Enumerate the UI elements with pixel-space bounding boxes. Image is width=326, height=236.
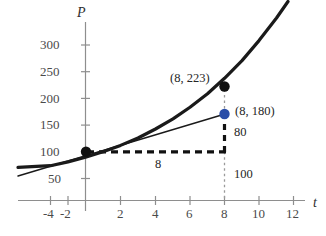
secant-point-label: (8, 180) <box>235 105 275 118</box>
y-tick-label-250: 250 <box>40 65 60 78</box>
base-label: 100 <box>234 168 253 181</box>
run-label: 8 <box>155 158 161 171</box>
y-tick-label-50: 50 <box>48 172 61 185</box>
x-tick-label-4: 4 <box>152 207 159 220</box>
x-tick-label--2: -2 <box>60 207 71 220</box>
x-tick-label-12: 12 <box>286 207 299 220</box>
x-tick-label-10: 10 <box>252 207 265 220</box>
y-tick-label-100: 100 <box>40 145 60 158</box>
curve-point-label: (8, 223) <box>170 72 210 85</box>
x-tick-label-8: 8 <box>221 207 228 220</box>
curve-point <box>219 81 229 91</box>
chart-figure: 300 250 200 150 100 50 -4 -2 2 4 6 8 10 … <box>0 0 326 236</box>
x-tick-label--4: -4 <box>43 207 54 220</box>
x-axis-title: t <box>313 196 317 210</box>
y-axis-title: P <box>77 6 86 20</box>
rise-label: 80 <box>234 126 247 139</box>
y-tick-label-200: 200 <box>40 92 60 105</box>
secant-point <box>219 109 229 119</box>
x-tick-label-2: 2 <box>117 207 124 220</box>
y-tick-label-300: 300 <box>40 38 60 51</box>
y-tick-label-150: 150 <box>40 118 60 131</box>
exponential-curve <box>18 2 288 168</box>
origin-point <box>81 147 91 157</box>
x-tick-label-6: 6 <box>186 207 193 220</box>
